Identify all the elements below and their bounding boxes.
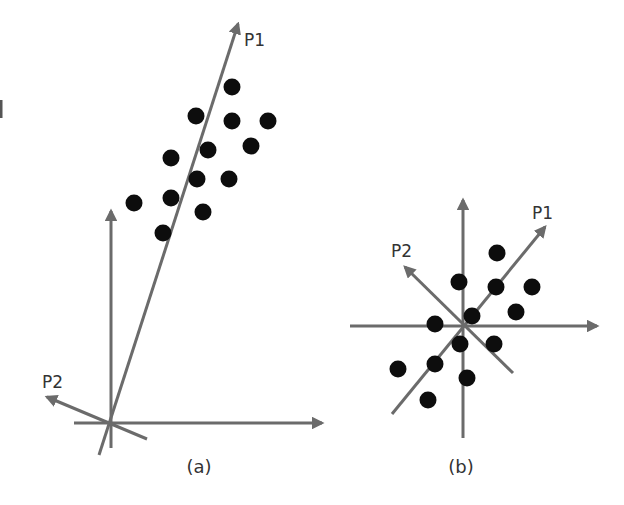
data-point [126, 195, 143, 212]
data-point [486, 336, 503, 353]
data-point [464, 308, 481, 325]
panel-a: P1 P2 (a) [42, 24, 322, 477]
panel-b-caption: (b) [448, 456, 473, 477]
panel-b-p1-label: P1 [532, 203, 553, 223]
data-point [188, 108, 205, 125]
panel-a-p1-axis [99, 24, 238, 455]
panel-a-p2-axis [47, 397, 147, 439]
data-point [224, 113, 241, 130]
data-point [427, 356, 444, 373]
panel-a-data-points [126, 79, 277, 242]
data-point [155, 225, 172, 242]
panel-a-p1-label: P1 [244, 30, 265, 50]
data-point [221, 171, 238, 188]
data-point [243, 138, 260, 155]
panel-a-caption: (a) [186, 456, 211, 477]
clipped-text-fragment [0, 100, 3, 118]
pca-diagram: P1 P2 (a) P1 P2 (b) [0, 0, 624, 505]
data-point [189, 171, 206, 188]
data-point [452, 336, 469, 353]
data-point [195, 204, 212, 221]
panel-b: P1 P2 (b) [350, 200, 597, 477]
data-point [488, 279, 505, 296]
data-point [427, 316, 444, 333]
data-point [390, 361, 407, 378]
data-point [459, 370, 476, 387]
data-point [200, 142, 217, 159]
data-point [508, 304, 525, 321]
data-point [489, 245, 506, 262]
data-point [224, 79, 241, 96]
data-point [524, 279, 541, 296]
data-point [451, 274, 468, 291]
panel-b-p2-label: P2 [391, 241, 412, 261]
panel-a-p2-label: P2 [42, 372, 63, 392]
data-point [260, 113, 277, 130]
data-point [163, 190, 180, 207]
data-point [163, 150, 180, 167]
data-point [420, 392, 437, 409]
